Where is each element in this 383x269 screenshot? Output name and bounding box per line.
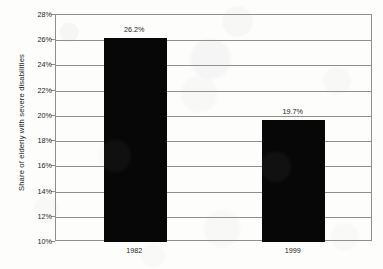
x-axis-tick-label: 1999 <box>285 246 301 255</box>
bar-value-label: 19.7% <box>283 107 303 116</box>
y-axis-tick-label: 10% <box>12 237 52 246</box>
bar-value-label: 26.2% <box>124 25 144 34</box>
y-axis-tick-label: 28% <box>12 10 52 19</box>
x-axis-tick-label: 1982 <box>126 246 142 255</box>
bar-chart-figure: Share of elderly with severe disabilitie… <box>0 0 383 269</box>
y-axis-tick-label: 26% <box>12 35 52 44</box>
y-axis-tick-label: 12% <box>12 212 52 221</box>
y-axis-tick-label: 14% <box>12 187 52 196</box>
bar <box>104 38 167 242</box>
y-axis-tick-label: 18% <box>12 136 52 145</box>
y-axis-tick-label: 22% <box>12 86 52 95</box>
y-axis-tick-label: 16% <box>12 161 52 170</box>
y-axis-tick-label: 24% <box>12 60 52 69</box>
plot-area <box>55 14 372 241</box>
bar <box>262 120 325 242</box>
y-axis-tick-label: 20% <box>12 111 52 120</box>
